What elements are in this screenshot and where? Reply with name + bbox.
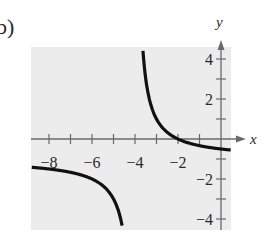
y-tick-label: −4 <box>196 211 213 228</box>
x-axis-label: x <box>249 131 257 147</box>
x-tick-label: −2 <box>169 154 186 171</box>
x-tick-label: −4 <box>126 154 143 171</box>
panel-label: b) <box>0 14 14 39</box>
y-axis-label: y <box>214 14 223 30</box>
y-tick-label: 4 <box>205 51 213 68</box>
function-graph: b) x y −8−6−4−242−2−4 <box>0 0 267 239</box>
y-tick-label: −2 <box>196 171 213 188</box>
y-tick-label: 2 <box>205 91 213 108</box>
y-axis-arrow-icon <box>218 40 225 50</box>
x-tick-label: −6 <box>83 154 100 171</box>
x-axis-arrow-icon <box>236 136 246 143</box>
